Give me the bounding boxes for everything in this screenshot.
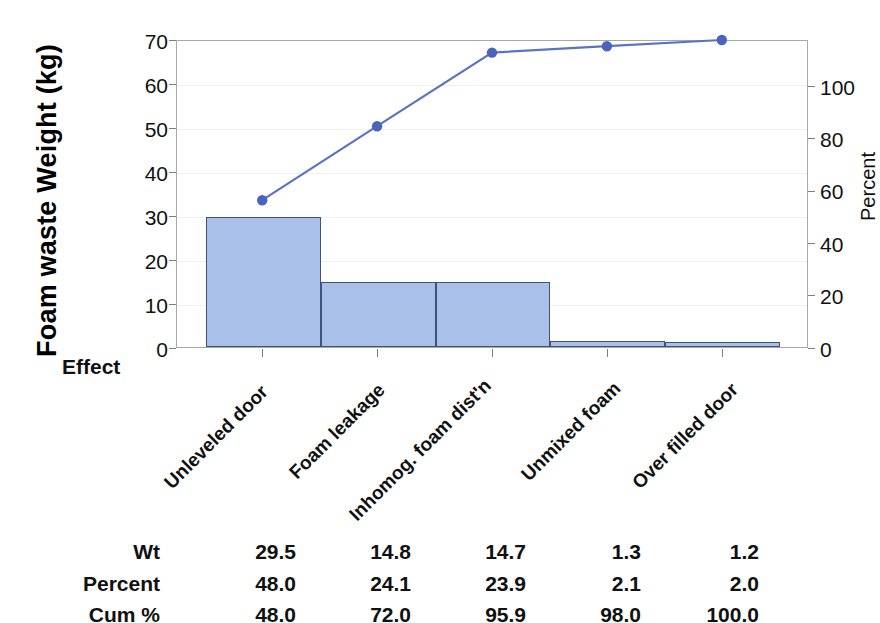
plot-area xyxy=(176,40,808,348)
y-tickmark-left-0 xyxy=(169,348,176,349)
table-cell-cum-4: 98.0 xyxy=(526,599,641,623)
x-tickmark-2 xyxy=(377,349,378,357)
y-tick-left-70: 70 xyxy=(108,31,168,52)
y-tick-left-30: 30 xyxy=(108,207,168,228)
table-spacer xyxy=(160,568,176,600)
table-spacer xyxy=(160,599,176,623)
x-category-label-4: Unmixed foam xyxy=(517,377,625,485)
gridline-40 xyxy=(177,173,807,174)
y-tickmark-left-70 xyxy=(169,40,176,41)
y-tick-left-60: 60 xyxy=(108,75,168,96)
y-tick-right-60: 60 xyxy=(820,181,880,202)
y-tickmark-left-40 xyxy=(169,172,176,173)
y-tickmark-left-20 xyxy=(169,260,176,261)
y-tick-left-50: 50 xyxy=(108,119,168,140)
table-cell-percent-2: 24.1 xyxy=(296,568,411,600)
y-tick-right-100: 100 xyxy=(820,77,880,98)
y-tickmark-right-20 xyxy=(808,295,815,296)
table-cell-percent-3: 23.9 xyxy=(411,568,526,600)
table-row: Wt 29.5 14.8 14.7 1.3 1.2 xyxy=(0,536,875,568)
table-row-label-cum-percent: Cum % xyxy=(0,599,160,623)
table-cell-wt-5: 1.2 xyxy=(641,536,759,568)
y-tickmark-left-60 xyxy=(169,84,176,85)
table-cell-cum-3: 95.9 xyxy=(411,599,526,623)
y-tick-left-40: 40 xyxy=(108,163,168,184)
table-cell-percent-1: 48.0 xyxy=(176,568,296,600)
y-tick-right-40: 40 xyxy=(820,234,880,255)
x-tickmark-4 xyxy=(607,349,608,357)
table-cell-percent-4: 2.1 xyxy=(526,568,641,600)
x-category-label-5: Over filled door xyxy=(628,379,743,494)
table-cell-cum-2: 72.0 xyxy=(296,599,411,623)
y-tick-right-20: 20 xyxy=(820,286,880,307)
table-cell-percent-5: 2.0 xyxy=(641,568,759,600)
table-cell-wt-2: 14.8 xyxy=(296,536,411,568)
gridline-50 xyxy=(177,129,807,130)
table-cell-wt-1: 29.5 xyxy=(176,536,296,568)
table-row: Percent 48.0 24.1 23.9 2.1 2.0 xyxy=(0,568,875,600)
table-endspacer xyxy=(759,536,875,568)
table-cell-wt-4: 1.3 xyxy=(526,536,641,568)
y-tickmark-right-40 xyxy=(808,243,815,244)
x-tickmark-5 xyxy=(722,349,723,357)
y-tickmark-left-50 xyxy=(169,128,176,129)
y-tick-right-0: 0 xyxy=(820,339,880,360)
table-spacer xyxy=(160,536,176,568)
bar-inhomog-foam-distn xyxy=(436,282,551,347)
bar-unmixed-foam xyxy=(550,341,665,347)
x-tickmark-3 xyxy=(492,349,493,357)
y-axis-left-title: Foam waste Weight (kg) xyxy=(32,31,63,371)
y-tick-left-20: 20 xyxy=(108,251,168,272)
y-tickmark-left-30 xyxy=(169,216,176,217)
table-cell-cum-1: 48.0 xyxy=(176,599,296,623)
y-tick-right-80: 80 xyxy=(820,129,880,150)
bar-unleveled-door xyxy=(206,217,321,347)
x-category-label-2: Foam leakage xyxy=(285,379,389,483)
x-tickmark-1 xyxy=(262,349,263,357)
table-cell-wt-3: 14.7 xyxy=(411,536,526,568)
gridline-60 xyxy=(177,85,807,86)
table-endspacer xyxy=(759,599,875,623)
table-row-label-percent: Percent xyxy=(0,568,160,600)
bar-over-filled-door xyxy=(665,342,780,347)
y-tickmark-right-60 xyxy=(808,191,815,192)
x-category-label-1: Unleveled door xyxy=(160,381,273,494)
y-tick-left-10: 10 xyxy=(108,295,168,316)
table-cell-cum-5: 100.0 xyxy=(641,599,759,623)
y-tickmark-right-80 xyxy=(808,138,815,139)
y-tickmark-right-100 xyxy=(808,86,815,87)
pareto-data-table: Wt 29.5 14.8 14.7 1.3 1.2 Percent 48.0 2… xyxy=(0,536,875,623)
y-tick-left-0: 0 xyxy=(108,339,168,360)
table-endspacer xyxy=(759,568,875,600)
table-row: Cum % 48.0 72.0 95.9 98.0 100.0 xyxy=(0,599,875,623)
y-tickmark-left-10 xyxy=(169,304,176,305)
bar-foam-leakage xyxy=(321,282,436,347)
table-row-label-wt: Wt xyxy=(0,536,160,568)
y-tickmark-right-0 xyxy=(808,348,815,349)
